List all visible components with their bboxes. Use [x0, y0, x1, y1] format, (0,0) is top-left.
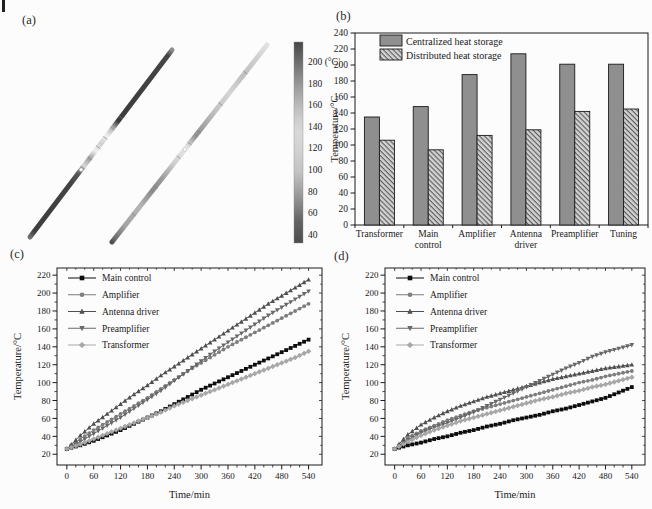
- y-tick-label: 100: [365, 378, 379, 388]
- data-point-marker: [297, 353, 302, 358]
- data-point-marker: [590, 400, 594, 404]
- y-tick-label: 180: [334, 76, 349, 86]
- x-tick-label: 360: [546, 471, 560, 481]
- data-point-marker: [449, 422, 454, 427]
- legend-marker: [80, 292, 85, 297]
- data-point-marker: [626, 370, 630, 374]
- data-point-marker: [626, 387, 630, 391]
- data-point-marker: [252, 371, 257, 376]
- category-label: control: [415, 240, 442, 250]
- data-point-marker: [612, 373, 616, 377]
- data-point-marker: [101, 423, 105, 427]
- y-tick-label: 100: [37, 378, 51, 388]
- data-point-marker: [307, 302, 311, 306]
- data-point-marker: [599, 376, 603, 380]
- data-point-marker: [145, 398, 150, 402]
- colorbar-tick-label: 100: [308, 165, 323, 175]
- data-point-marker: [529, 415, 533, 419]
- data-point-marker: [145, 383, 150, 387]
- data-point-marker: [262, 326, 266, 330]
- data-point-marker: [506, 406, 511, 411]
- bar-groups: TransformerMaincontrolAmplifierAntennadr…: [356, 54, 639, 250]
- data-point-marker: [298, 307, 302, 311]
- data-point-marker: [275, 352, 279, 356]
- bar-centralized-heat-storage: [462, 75, 477, 225]
- data-point-marker: [284, 359, 289, 364]
- data-point-marker: [607, 381, 612, 386]
- data-point-marker: [270, 311, 275, 315]
- x-tick-label: 480: [275, 471, 289, 481]
- data-point-marker: [240, 338, 244, 342]
- data-point-marker: [617, 372, 621, 376]
- data-point-marker: [476, 427, 480, 431]
- data-point-marker: [208, 384, 212, 388]
- data-point-marker: [91, 421, 96, 425]
- legend-label: Main control: [430, 273, 480, 283]
- category-label: Amplifier: [458, 229, 496, 239]
- data-point-marker: [118, 416, 123, 420]
- data-point-marker: [240, 369, 244, 373]
- x-tick-label: 360: [221, 471, 235, 481]
- data-point-marker: [275, 362, 280, 367]
- data-point-marker: [546, 389, 550, 393]
- data-point-marker: [217, 346, 222, 350]
- x-tick-label: 540: [625, 471, 639, 481]
- data-point-marker: [163, 370, 168, 374]
- data-point-marker: [568, 383, 572, 387]
- y-tick-label: 60: [370, 414, 380, 424]
- data-point-marker: [132, 392, 137, 396]
- data-point-marker: [176, 361, 181, 365]
- y-tick-label: 80: [370, 396, 380, 406]
- data-point-marker: [572, 389, 577, 394]
- data-point-marker: [235, 322, 240, 326]
- data-point-marker: [226, 382, 231, 387]
- data-point-marker: [621, 371, 625, 375]
- data-point-marker: [226, 340, 231, 344]
- data-point-marker: [96, 418, 101, 422]
- data-point-marker: [595, 398, 599, 402]
- y-tick-label: 140: [365, 342, 379, 352]
- data-point-marker: [257, 320, 262, 324]
- data-point-marker: [467, 429, 471, 433]
- data-point-marker: [235, 340, 239, 344]
- data-point-marker: [136, 404, 141, 408]
- data-point-marker: [463, 430, 467, 434]
- data-point-marker: [302, 351, 307, 356]
- data-point-marker: [132, 407, 137, 411]
- data-point-marker: [498, 408, 503, 413]
- data-point-marker: [199, 388, 203, 392]
- y-tick-label: 220: [37, 270, 51, 280]
- data-point-marker: [257, 361, 261, 365]
- data-point-marker: [537, 397, 542, 402]
- data-point-marker: [168, 367, 173, 371]
- plot-box: [355, 33, 648, 225]
- x-axis-title: Time/min: [169, 489, 211, 500]
- bar-legend: Centralized heat storageDistributed heat…: [380, 35, 503, 61]
- data-point-marker: [279, 306, 284, 310]
- data-point-marker: [306, 277, 311, 281]
- y-tick-label: 180: [365, 306, 379, 316]
- colorbar-tick-label: 40: [308, 230, 318, 240]
- data-point-marker: [257, 328, 261, 332]
- y-axis-title: Temperature/°C: [340, 333, 351, 400]
- figure-four-panel: (a) 200 (°C)180160140120100806040 (b) 02…: [0, 0, 652, 509]
- data-point-marker: [525, 416, 529, 420]
- data-point-marker: [546, 411, 550, 415]
- series-transformer: [64, 349, 311, 451]
- data-point-marker: [185, 355, 190, 359]
- y-tick-label: 40: [42, 432, 52, 442]
- data-point-marker: [221, 384, 226, 389]
- x-tick-label: 240: [493, 471, 507, 481]
- legend-label: Transformer: [430, 340, 478, 350]
- data-point-marker: [110, 417, 114, 421]
- bar-distributed-heat-storage: [575, 111, 590, 225]
- data-point-marker: [239, 331, 244, 335]
- legend-swatch: [380, 35, 402, 46]
- data-point-marker: [266, 314, 271, 318]
- data-point-marker: [555, 408, 559, 412]
- data-point-marker: [302, 280, 307, 284]
- page-edge-mark: [2, 0, 5, 12]
- data-point-marker: [415, 442, 419, 446]
- data-point-marker: [266, 366, 271, 371]
- data-point-marker: [226, 375, 230, 379]
